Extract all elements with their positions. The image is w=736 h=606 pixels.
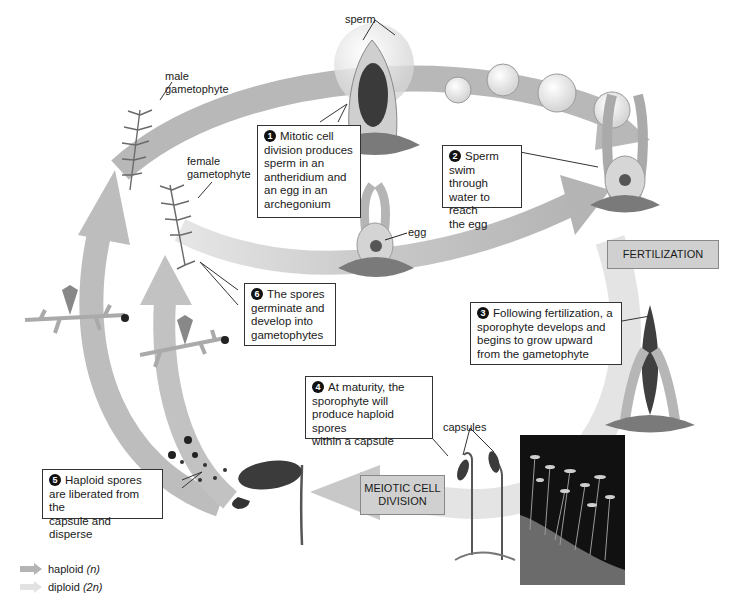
haploid-arc-inner [180, 175, 610, 263]
protonema-left [25, 285, 129, 333]
step-6-number: 6 [251, 288, 263, 300]
step-3-line: begins to grow upward [477, 334, 593, 346]
female-gametophyte-label: female gametophyte [187, 155, 251, 180]
step-2-line: Sperm [465, 150, 499, 162]
step-3-line: from the gametophyte [477, 348, 589, 360]
meiotic-division-stage-box: MEIOTIC CELLDIVISION [360, 475, 445, 515]
haploid-arrow-icon [20, 563, 42, 575]
step-1-line: an egg in an [264, 184, 327, 196]
diploid-arrow-icon [20, 581, 42, 593]
fertilization-stage-box: FERTILIZATION [607, 240, 719, 269]
male-gametophyte-label: male gametophyte [165, 70, 229, 95]
step-4-line: At maturity, the [328, 381, 404, 393]
step-6-line: gametophytes [251, 329, 323, 341]
step-5-line: are liberated from the [49, 488, 139, 514]
step-5-number: 5 [49, 474, 61, 486]
moss-life-cycle-diagram: sperm male gametophyte female gametophyt… [0, 0, 736, 606]
step-1-line: sperm in an [264, 157, 324, 169]
step-5-line: Haploid spores [65, 474, 142, 486]
female-label-line1: female [187, 155, 251, 168]
male-label-line1: male [165, 70, 229, 83]
step-6-callout: 6The spores germinate and develop into g… [244, 283, 336, 346]
step-6-line: germinate and [251, 302, 325, 314]
step-1-line: archegonium [264, 198, 330, 210]
fertilization-label: FERTILIZATION [623, 248, 703, 261]
legend-diploid-symbol: (2n) [83, 581, 103, 593]
step-2-line: the egg [449, 218, 487, 230]
step-3-number: 3 [477, 307, 489, 319]
moss-photo-art [520, 435, 625, 585]
legend-haploid: haploid (n) [20, 563, 100, 575]
step-5-callout: 5Haploid spores are liberated from the c… [42, 469, 163, 519]
legend-haploid-label: haploid [48, 563, 83, 575]
meiotic-label-line2: DIVISION [378, 495, 426, 507]
step-4-callout: 4At maturity, the sporophyte will produc… [305, 376, 433, 439]
step-2-number: 2 [449, 150, 461, 162]
step-2-callout: 2Sperm swim through water to reach the e… [442, 145, 522, 208]
male-label-line2: gametophyte [165, 83, 229, 96]
sperm-label: sperm [345, 13, 376, 26]
step-3-line: Following fertilization, a [493, 307, 613, 319]
step-6-line: develop into [251, 315, 313, 327]
meiotic-label-line1: MEIOTIC CELL [364, 482, 440, 494]
step-4-line: produce haploid spores [312, 408, 394, 434]
step-4-number: 4 [312, 381, 324, 393]
female-label-line2: gametophyte [187, 168, 251, 181]
capsules-label: capsules [443, 421, 486, 434]
moss-photo [520, 435, 625, 585]
step-3-callout: 3Following fertilization, a sporophyte d… [470, 302, 622, 365]
step-4-line: within a capsule [312, 435, 394, 447]
step-4-line: sporophyte will [312, 395, 388, 407]
step-1-line: antheridium and [264, 171, 346, 183]
step-1-line: division produces [264, 144, 353, 156]
step-2-line: swim through [449, 164, 488, 190]
step-6-line: The spores [267, 288, 325, 300]
legend-haploid-symbol: (n) [87, 563, 100, 575]
legend-diploid: diploid (2n) [20, 581, 102, 593]
step-1-line: Mitotic cell [280, 130, 334, 142]
egg-label: egg [408, 226, 426, 239]
step-1-number: 1 [264, 130, 276, 142]
legend-diploid-label: diploid [48, 581, 80, 593]
step-1-callout: 1Mitotic cell division produces sperm in… [257, 125, 361, 218]
step-3-line: sporophyte develops and [477, 321, 606, 333]
